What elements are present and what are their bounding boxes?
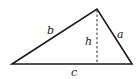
triangle-diagram: b h a c [0,0,136,79]
label-a: a [117,28,124,41]
label-h: h [85,35,92,48]
label-b: b [47,24,54,37]
label-c: c [71,66,77,79]
triangle-outline [12,9,132,64]
